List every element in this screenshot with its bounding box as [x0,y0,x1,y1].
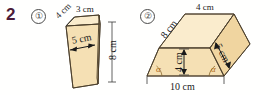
figure-trapezoidal-prism: 8 cm 4 cm 5 cm 4 cm 10 cm α α [137,0,274,95]
label-3cm-fig1: 3 cm [76,5,94,14]
label-4cm-fig2: 4 cm [196,3,214,12]
trapezoidal-prism-drawing [137,0,274,95]
figure-oblique-prism: 4 cm 3 cm 5 cm 8 cm [0,0,137,95]
figure-panel: 2 ① ② 4 cm 3 cm 5 cm [0,0,274,95]
label-alpha-left: α [156,65,161,74]
label-10cm-fig2: 10 cm [170,82,195,92]
label-8cm-fig1: 8 cm [108,40,118,60]
label-4cm-height-fig2: 4 cm [174,52,184,72]
label-alpha-right: α [211,65,216,74]
